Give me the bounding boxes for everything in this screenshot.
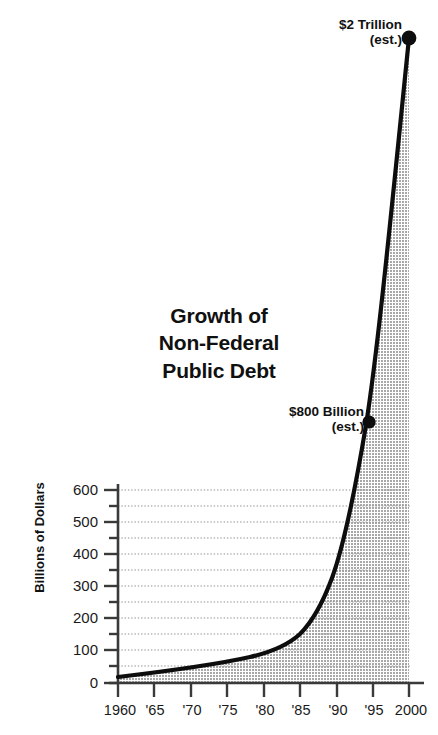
annotation-800-billion-label: $800 Billion — [289, 404, 364, 419]
y-tick-label-400: 400 — [46, 545, 98, 562]
x-tick-label-70: '70 — [183, 702, 202, 718]
y-tick-label-500: 500 — [46, 513, 98, 530]
marker-2-trillion — [402, 31, 417, 46]
y-tick-label-300: 300 — [46, 577, 98, 594]
x-tick-label-80: '80 — [256, 702, 275, 718]
annotation-800-billion: $800 Billion (est.) — [289, 404, 364, 434]
chart-title-line-1: Growth of — [0, 302, 438, 329]
y-axis-ticks — [104, 490, 118, 683]
chart-figure: $2 Trillion (est.) $800 Billion (est.) G… — [0, 0, 438, 735]
y-tick-label-100: 100 — [46, 641, 98, 658]
annotation-2-trillion-sublabel: (est.) — [339, 32, 402, 47]
x-tick-label-65: '65 — [146, 702, 165, 718]
x-axis-ticks — [118, 683, 409, 697]
marker-800-billion — [362, 415, 375, 428]
chart-title: Growth of Non-Federal Public Debt — [0, 302, 438, 384]
y-tick-label-600: 600 — [46, 481, 98, 498]
y-tick-label-200: 200 — [46, 609, 98, 626]
y-tick-label-0: 0 — [46, 674, 98, 691]
x-tick-label-1960: 1960 — [104, 702, 136, 718]
chart-title-line-2: Non-Federal — [0, 329, 438, 356]
x-tick-label-85: '85 — [292, 702, 311, 718]
x-tick-label-90: '90 — [329, 702, 348, 718]
x-tick-label-75: '75 — [219, 702, 238, 718]
annotation-800-billion-sublabel: (est.) — [289, 419, 364, 434]
annotation-2-trillion-label: $2 Trillion — [339, 17, 402, 32]
x-tick-label-2000: 2000 — [395, 702, 427, 718]
x-tick-label-95: '95 — [365, 702, 384, 718]
chart-title-line-3: Public Debt — [0, 357, 438, 384]
annotation-2-trillion: $2 Trillion (est.) — [339, 17, 402, 47]
y-axis-title: Billions of Dollars — [32, 463, 47, 613]
